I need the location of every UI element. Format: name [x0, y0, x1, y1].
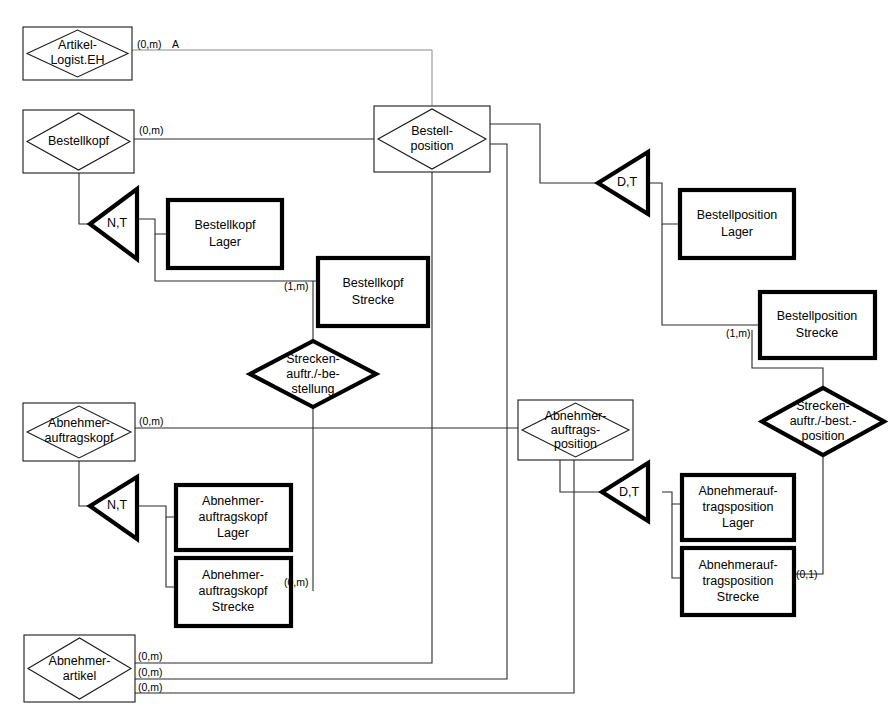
subtype-label-line1: Abnehmer-: [202, 568, 264, 582]
cardinality-abnehmerartikel-3: (0,m): [138, 681, 163, 693]
entity-label-line1: Bestell-: [411, 124, 453, 138]
subtype-label-line3: Strecke: [717, 590, 759, 604]
relationship-label-line1: Strecken-: [796, 399, 850, 413]
subtype-box: [168, 200, 282, 268]
subtype-label-line2: auftragskopf: [199, 584, 268, 598]
subtype-label-line2: Lager: [721, 225, 753, 239]
entity-label-line1: Artikel-: [58, 38, 97, 52]
subtype-abnehmer-auftragskopf-lager[interactable]: Abnehmer- auftragskopf Lager: [176, 485, 291, 550]
entity-bestellposition[interactable]: Bestell- position: [374, 106, 490, 172]
entity-label-line2: artikel: [63, 669, 96, 683]
subtype-label-line3: Strecke: [212, 600, 254, 614]
relationship-label-line3: stellung: [291, 382, 334, 396]
subtype-box: [318, 258, 428, 326]
specialization-triangle-abnehmer-auftragskopf[interactable]: N,T: [90, 477, 137, 539]
subtype-abnehmerauftragsposition-lager[interactable]: Abnehmerauf- tragsposition Lager: [682, 475, 794, 540]
subtype-label-line2: tragsposition: [703, 574, 774, 588]
relationship-strecken-auftrag-bestellung[interactable]: Strecken- auftr./-be- stellung: [250, 341, 376, 407]
entity-label-line2: auftragskopf: [45, 431, 114, 445]
entity-bestellkopf[interactable]: Bestellkopf: [23, 110, 134, 173]
triangle-label: D,T: [619, 485, 640, 499]
subtype-label-line2: auftragskopf: [199, 510, 268, 524]
subtype-label-line1: Abnehmerauf-: [698, 558, 777, 572]
subtype-label-line1: Abnehmer-: [202, 494, 264, 508]
cardinality-abnehmerartikel-1: (0,m): [138, 650, 163, 662]
subtype-box: [760, 292, 875, 358]
cardinality-bestellposition-strecke: (1,m): [726, 327, 751, 339]
entity-label-line1: Bestellkopf: [48, 134, 110, 148]
triangle-label: N,T: [107, 216, 128, 230]
link-strecken-rel2-to-abnpos-strecke: [795, 455, 823, 574]
cardinality-bestellkopf-strecke: (1,m): [284, 280, 309, 292]
subtype-label-line2: Lager: [209, 235, 241, 249]
relationship-label-line1: Strecken-: [286, 352, 340, 366]
entity-label-line1: Abnehmer-: [49, 654, 111, 668]
entity-label-line2: position: [410, 139, 453, 153]
subtype-label-line2: Strecke: [796, 326, 838, 340]
subtype-label-line1: Bestellposition: [777, 309, 858, 323]
cardinality-abnehmer-auftragskopf-strecke: (0,m): [284, 576, 309, 588]
entity-label-line2: Logist.EH: [50, 53, 104, 67]
subtype-label-line3: Lager: [722, 516, 754, 530]
cardinality-abnehmerauftragsposition-strecke: (0,1): [796, 568, 818, 580]
entity-label-line1: Abnehmer-: [48, 416, 110, 430]
subtype-label-line3: Lager: [217, 526, 249, 540]
entity-abnehmerartikel[interactable]: Abnehmer- artikel: [24, 635, 135, 702]
entity-abnehmer-auftragskopf[interactable]: Abnehmer- auftragskopf: [23, 403, 135, 461]
link-nt2-to-abnkopf-lager: [137, 506, 176, 517]
er-diagram-canvas: Artikel- Logist.EH Bestellkopf Bestell- …: [0, 0, 892, 722]
cardinality-bestellkopf: (0,m): [139, 124, 164, 136]
specialization-triangle-abnehmer-auftragsposition[interactable]: D,T: [602, 463, 648, 521]
cardinality-artikel-logist: (0,m): [137, 38, 162, 50]
link-nt-to-bestellkopf-lager: [137, 219, 168, 234]
specialization-triangle-bestellposition[interactable]: D,T: [598, 152, 648, 214]
subtype-box: [680, 190, 794, 258]
subtype-label-line1: Bestellkopf: [342, 276, 404, 290]
link-artikel-to-bestellposition: [132, 50, 432, 106]
triangle-label: N,T: [107, 498, 128, 512]
entity-label-line1: Abnehmer-: [545, 409, 607, 423]
link-dt-to-bestellposition-lager: [648, 183, 680, 224]
cardinality-role-a: A: [172, 38, 179, 50]
link-bestellposition-to-dt: [490, 124, 598, 183]
subtype-label-line2: tragsposition: [703, 500, 774, 514]
relationship-label-line3: position: [801, 429, 844, 443]
subtype-label-line1: Bestellposition: [697, 208, 778, 222]
subtype-bestellposition-lager[interactable]: Bestellposition Lager: [680, 190, 794, 258]
subtype-label-line1: Bestellkopf: [194, 218, 256, 232]
relationship-label-line2: auftr./-best.-: [790, 414, 857, 428]
link-abnehmerauftragskopf-to-nt2: [79, 461, 90, 506]
triangle-label: D,T: [617, 175, 638, 189]
link-abnpos-to-dt2: [560, 460, 602, 492]
specialization-triangle-bestellkopf[interactable]: N,T: [90, 189, 137, 259]
subtype-bestellposition-strecke[interactable]: Bestellposition Strecke: [760, 292, 875, 358]
entity-artikel-logist-eh[interactable]: Artikel- Logist.EH: [23, 27, 132, 80]
subtype-bestellkopf-lager[interactable]: Bestellkopf Lager: [168, 200, 282, 268]
subtype-label-line1: Abnehmerauf-: [698, 484, 777, 498]
subtype-label-line2: Strecke: [352, 293, 394, 307]
cardinality-abnehmerartikel-2: (0,m): [138, 666, 163, 678]
entity-label-line3: position: [554, 437, 597, 451]
subtype-abnehmerauftragsposition-strecke[interactable]: Abnehmerauf- tragsposition Strecke: [682, 548, 794, 615]
relationship-label-line2: auftr./-be-: [286, 367, 340, 381]
cardinality-abnehmer-auftragskopf: (0,m): [139, 415, 164, 427]
entity-label-line2: auftrags-: [551, 423, 600, 437]
link-dt2-to-abnpos-lager: [662, 492, 682, 504]
entity-abnehmer-auftragsposition[interactable]: Abnehmer- auftrags- position: [518, 400, 633, 460]
subtype-abnehmer-auftragskopf-strecke[interactable]: Abnehmer- auftragskopf Strecke: [176, 558, 291, 626]
subtype-bestellkopf-strecke[interactable]: Bestellkopf Strecke: [318, 258, 428, 326]
relationship-strecken-auftrag-bestposition[interactable]: Strecken- auftr./-best.- position: [762, 388, 884, 455]
link-bestellkopf-to-nt: [79, 173, 90, 224]
